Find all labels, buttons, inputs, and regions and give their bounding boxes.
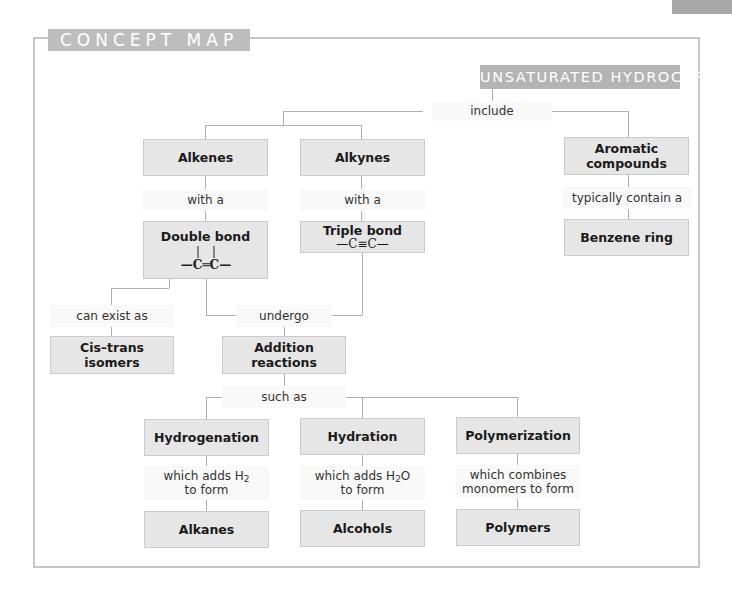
node-alkenes: Alkenes [143,139,268,176]
link-text: such as [261,390,306,404]
node-label: Benzene ring [580,230,673,245]
node-label: Polymers [485,520,550,535]
node-hydration: Hydration [300,418,425,455]
node-label: Hydrogenation [154,430,259,445]
node-label: Triple bond [323,223,402,238]
link-label-can-exist-as: can exist as [50,305,174,327]
node-polymers: Polymers [456,509,580,546]
node-label: Double bond [161,229,250,244]
link-text-line1: which adds H2 [163,469,249,483]
svg-text:—C═C—: —C═C— [180,258,230,272]
link-text: undergo [259,309,309,323]
node-label-line2: isomers [84,355,139,370]
triple-bond-formula: —C≡C— [336,238,388,251]
link-text: with a [344,193,381,207]
link-text-line1: which combines [470,468,567,482]
link-text-line1: which adds H2O [315,469,411,483]
link-text: with a [187,193,224,207]
link-label-alkynes-with-a: with a [300,189,425,211]
link-text: typically contain a [572,191,682,205]
node-label-line2: reactions [251,355,317,370]
page-corner-tab [672,0,732,14]
link-label-which-combines-monomers: which combines monomers to form [456,465,580,499]
link-label-which-adds-h2o: which adds H2O to form [300,466,425,500]
link-label-undergo: undergo [236,305,332,327]
node-cis-trans-isomers: Cis–trans isomers [50,336,174,374]
node-triple-bond: Triple bond —C≡C— [300,221,425,253]
node-label: Alkanes [179,522,235,537]
root-node-unsaturated-hydrocarbons: UNSATURATED HYDROCARBONS [480,65,680,89]
node-benzene-ring: Benzene ring [564,219,689,256]
node-label-line1: Aromatic [595,141,659,156]
link-label-include: include [432,101,552,121]
node-label-line1: Addition [254,340,314,355]
link-text: can exist as [76,309,147,323]
node-double-bond: Double bond —C═C— [143,221,268,279]
node-polymerization: Polymerization [456,417,580,454]
node-label: Alkenes [178,150,233,165]
node-aromatic-compounds: Aromatic compounds [564,137,689,175]
node-label: Alkynes [335,150,390,165]
link-label-typically-contain-a: typically contain a [562,187,692,209]
link-label-such-as: such as [222,386,346,408]
node-alcohols: Alcohols [300,510,425,547]
link-text-line2: to form [185,483,229,497]
node-label-line2: compounds [586,156,667,171]
node-addition-reactions: Addition reactions [222,336,346,374]
node-alkanes: Alkanes [144,511,269,548]
link-text-line2: to form [341,483,385,497]
node-label: Hydration [328,429,398,444]
node-hydrogenation: Hydrogenation [144,419,269,456]
link-label-which-adds-h2: which adds H2 to form [144,466,269,500]
node-label: Polymerization [465,428,571,443]
double-bond-structure-icon: —C═C— [166,244,246,272]
concept-map-title: CONCEPT MAP [48,29,250,51]
link-text-line2: monomers to form [462,482,574,496]
link-text: include [470,104,513,118]
node-label: Alcohols [333,521,392,536]
node-label-line1: Cis–trans [80,340,144,355]
link-label-alkenes-with-a: with a [143,189,268,211]
node-alkynes: Alkynes [300,139,425,176]
